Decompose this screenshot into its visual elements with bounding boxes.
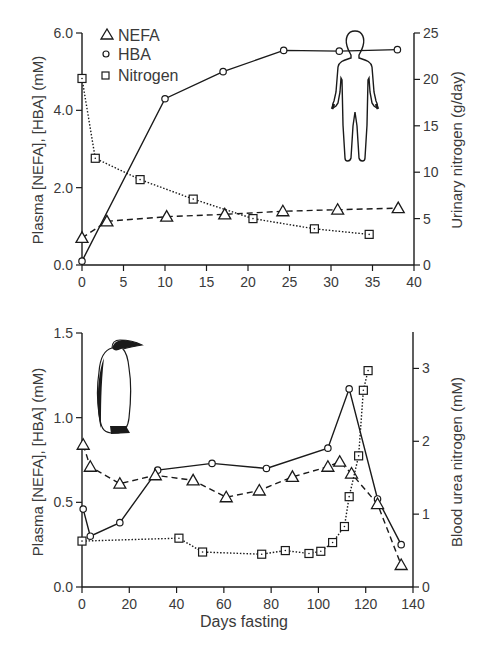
legend-label: HBA xyxy=(118,46,151,63)
triangle-marker xyxy=(372,498,384,509)
circle-marker xyxy=(87,533,93,539)
x-tick-label: 25 xyxy=(282,274,298,290)
top-chart: 05101520253035400.02.04.06.00510152025 xyxy=(54,25,439,290)
circle-marker xyxy=(325,445,331,451)
circle-marker xyxy=(80,506,86,512)
triangle-marker xyxy=(322,461,334,472)
circle-marker xyxy=(162,96,168,102)
x-tick-label: 60 xyxy=(216,596,232,612)
triangle-marker xyxy=(76,232,88,243)
circle-marker-icon xyxy=(103,51,109,57)
bottom-y2-axis-title: Blood urea nitrogen (mM) xyxy=(448,377,465,547)
y2-tick-label: 15 xyxy=(423,118,439,134)
triangle-marker xyxy=(334,456,346,467)
y-tick-label: 0.0 xyxy=(54,257,74,273)
x-tick-label: 40 xyxy=(406,274,422,290)
x-tick-label: 30 xyxy=(323,274,339,290)
triangle-marker xyxy=(187,474,199,485)
x-tick-label: 20 xyxy=(121,596,137,612)
y2-tick-label: 5 xyxy=(423,211,431,227)
legend-label: Nitrogen xyxy=(118,67,178,84)
triangle-marker xyxy=(77,439,89,450)
legend-item-nitrogen: Nitrogen xyxy=(102,67,178,84)
y2-tick-label: 1 xyxy=(422,506,430,522)
y-tick-label: 0.5 xyxy=(54,494,74,510)
x-tick-label: 35 xyxy=(365,274,381,290)
y-tick-label: 4.0 xyxy=(54,102,74,118)
penguin-silhouette-icon xyxy=(98,340,143,434)
legend: NEFA HBA Nitrogen xyxy=(101,27,178,84)
circle-marker xyxy=(117,519,123,525)
circle-marker xyxy=(209,460,215,466)
x-tick-label: 80 xyxy=(263,596,279,612)
x-tick-label: 15 xyxy=(199,274,215,290)
triangle-marker xyxy=(346,468,358,479)
circle-marker xyxy=(280,47,286,53)
x-tick-label: 40 xyxy=(169,596,185,612)
x-tick-label: 100 xyxy=(307,596,331,612)
circle-marker xyxy=(79,258,85,264)
triangle-marker xyxy=(392,202,404,213)
y-tick-label: 2.0 xyxy=(54,180,74,196)
y2-tick-label: 3 xyxy=(422,360,430,376)
triangle-marker xyxy=(84,461,96,472)
x-tick-label: 10 xyxy=(157,274,173,290)
x-tick-label: 20 xyxy=(240,274,256,290)
circle-marker xyxy=(394,46,400,52)
top-y-axis-title: Plasma [NEFA], [HBA] (mM) xyxy=(29,56,46,244)
circle-marker xyxy=(336,48,342,54)
y-tick-label: 1.5 xyxy=(54,325,74,341)
y2-tick-label: 2 xyxy=(422,433,430,449)
triangle-marker-icon xyxy=(101,29,113,39)
figure: 05101520253035400.02.04.06.00510152025 0… xyxy=(0,0,488,651)
bottom-y-axis-title: Plasma [NEFA], [HBA] (mM) xyxy=(29,368,46,556)
legend-label: NEFA xyxy=(118,27,160,44)
triangle-marker xyxy=(253,484,265,495)
series-nefa xyxy=(76,202,404,242)
x-tick-label: 0 xyxy=(78,596,86,612)
x-axis-title: Days fasting xyxy=(200,613,288,630)
circle-marker xyxy=(346,386,352,392)
legend-item-nefa: NEFA xyxy=(101,27,160,44)
y-tick-label: 0.0 xyxy=(54,579,74,595)
y2-tick-label: 10 xyxy=(423,164,439,180)
circle-marker xyxy=(263,465,269,471)
circle-marker xyxy=(398,541,404,547)
y2-tick-label: 20 xyxy=(423,71,439,87)
x-tick-label: 140 xyxy=(401,596,425,612)
square-marker-icon xyxy=(102,72,109,79)
top-y2-axis-title: Urinary nitrogen (g/day) xyxy=(448,71,465,229)
y-tick-label: 6.0 xyxy=(54,25,74,41)
legend-item-hba: HBA xyxy=(103,46,151,63)
triangle-marker xyxy=(395,559,407,570)
y2-tick-label: 0 xyxy=(422,579,430,595)
y2-tick-label: 25 xyxy=(423,25,439,41)
y2-tick-label: 0 xyxy=(423,257,431,273)
y-tick-label: 1.0 xyxy=(54,410,74,426)
x-tick-label: 0 xyxy=(78,274,86,290)
x-tick-label: 120 xyxy=(354,596,378,612)
circle-marker xyxy=(220,68,226,74)
x-tick-label: 5 xyxy=(120,274,128,290)
